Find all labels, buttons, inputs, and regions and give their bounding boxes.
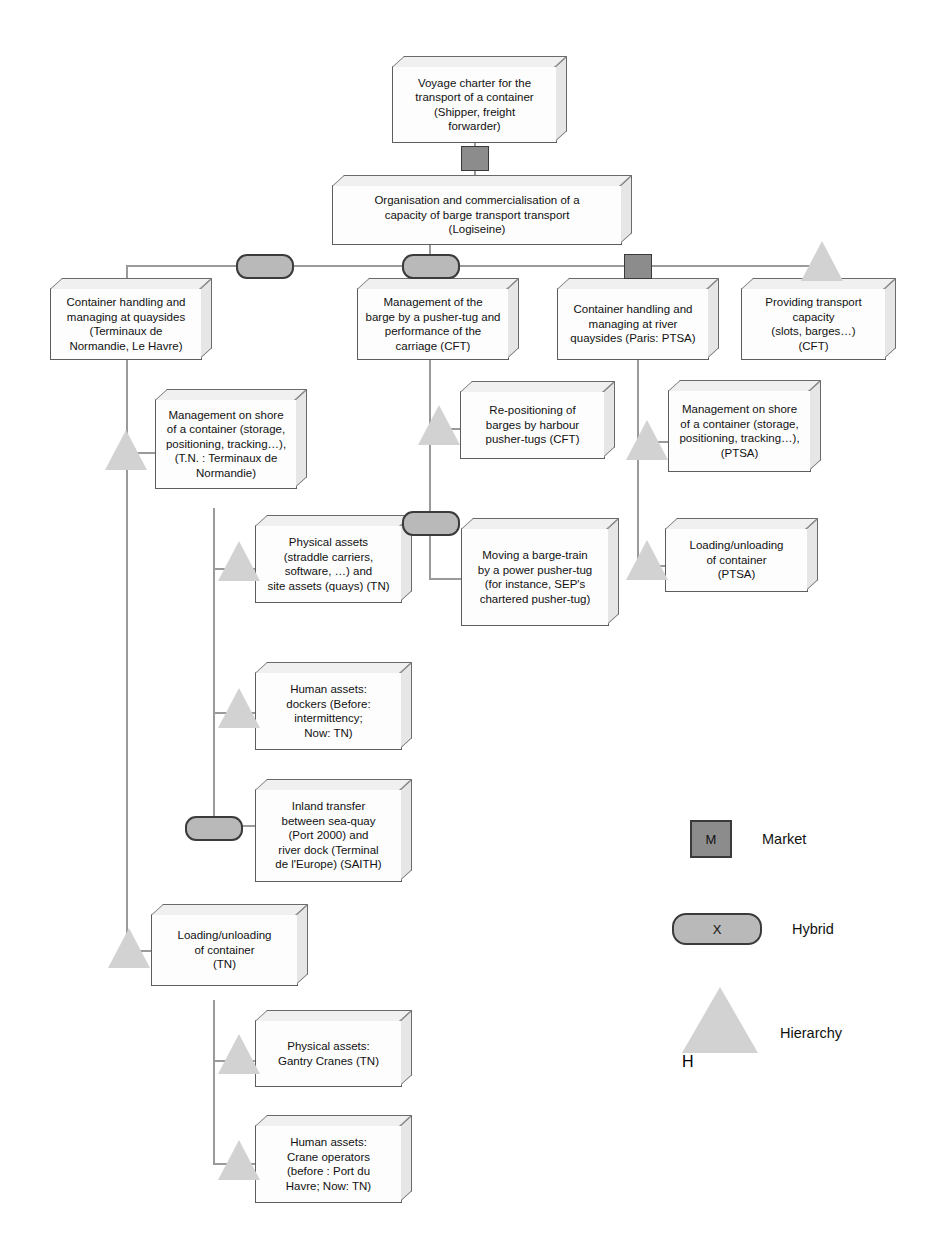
node-label: Organisation and commercialisation of a …	[374, 193, 579, 237]
hybrid-glyph-middle-branch	[402, 254, 460, 279]
node-label: Container handling and managing at quays…	[67, 295, 186, 353]
hierarchy-glyph-physical-assets-gantry	[218, 1034, 260, 1074]
hierarchy-glyph-loading-ptsa	[626, 540, 668, 580]
hybrid-glyph-letter: X	[674, 922, 760, 937]
connector-right-spine	[637, 360, 639, 567]
market-square-icon: M	[690, 820, 732, 858]
node-label: Management on shore of a container (stor…	[679, 402, 799, 460]
hierarchy-glyph-human-assets-dockers	[218, 688, 260, 728]
node-container-handling-river[interactable]: Container handling and managing at river…	[557, 288, 709, 360]
connector-middle-spine	[429, 360, 431, 580]
legend-item-market: M Market	[690, 820, 806, 858]
node-physical-assets-tn[interactable]: Physical assets (straddle carriers, soft…	[255, 525, 402, 603]
hybrid-rounded-icon: X	[672, 913, 762, 945]
hierarchy-glyph-physical-assets-tn	[218, 541, 260, 581]
hierarchy-glyph-letter: H	[682, 1053, 694, 1070]
node-physical-assets-gantry[interactable]: Physical assets: Gantry Cranes (TN)	[255, 1020, 402, 1087]
node-label: Re-positioning of barges by harbour push…	[486, 403, 580, 447]
connector-loading-tn-down	[213, 1000, 215, 1165]
node-label: Human assets: Crane operators (before : …	[286, 1135, 371, 1193]
node-label: Physical assets (straddle carriers, soft…	[267, 535, 389, 593]
node-label: Human assets: dockers (Before: intermitt…	[286, 682, 370, 740]
market-glyph-voyage	[461, 146, 489, 171]
node-repositioning-barges[interactable]: Re-positioning of barges by harbour push…	[460, 391, 605, 459]
node-label: Providing transport capacity (slots, bar…	[765, 295, 862, 353]
node-label: Container handling and managing at river…	[570, 302, 695, 346]
node-label: Management of the barge by a pusher-tug …	[366, 295, 501, 353]
hybrid-glyph-left-branch	[236, 254, 294, 279]
legend-item-hybrid: X Hybrid	[672, 913, 834, 945]
legend-label-market: Market	[762, 831, 806, 847]
connector-to-moving-barge-train	[429, 578, 461, 580]
hybrid-glyph-inland-transfer	[185, 816, 243, 841]
diagram-canvas: Voyage charter for the transport of a co…	[0, 0, 951, 1252]
node-label: Physical assets: Gantry Cranes (TN)	[278, 1039, 379, 1068]
hierarchy-glyph-mgmt-shore-ptsa	[626, 420, 668, 460]
hybrid-glyph-moving-barge-train	[402, 511, 460, 536]
legend-label-hierarchy: Hierarchy	[780, 1025, 842, 1041]
hierarchy-glyph-providing-capacity	[801, 241, 843, 281]
node-label: Management on shore of a container (stor…	[166, 408, 286, 481]
connector-mgmt-shore-down	[213, 508, 215, 825]
node-inland-transfer[interactable]: Inland transfer between sea-quay (Port 2…	[255, 789, 402, 882]
node-label: Loading/unloading of container (PTSA)	[689, 538, 783, 582]
node-loading-unloading-ptsa[interactable]: Loading/unloading of container (PTSA)	[665, 528, 808, 592]
hierarchy-triangle-icon: H	[682, 987, 758, 1053]
node-moving-barge-train[interactable]: Moving a barge-train by a power pusher-t…	[461, 528, 609, 626]
hierarchy-glyph-human-assets-crane	[218, 1140, 260, 1180]
node-human-assets-crane[interactable]: Human assets: Crane operators (before : …	[255, 1125, 402, 1203]
node-label: Moving a barge-train by a power pusher-t…	[478, 548, 592, 606]
market-glyph-letter: M	[692, 832, 730, 847]
hierarchy-triangle-shape	[682, 987, 758, 1053]
node-human-assets-dockers[interactable]: Human assets: dockers (Before: intermitt…	[255, 672, 402, 750]
connector-main-bus	[126, 265, 824, 267]
node-management-shore-ptsa[interactable]: Management on shore of a container (stor…	[668, 390, 811, 472]
node-management-shore-tn[interactable]: Management on shore of a container (stor…	[155, 399, 297, 489]
legend-label-hybrid: Hybrid	[792, 921, 834, 937]
node-label: Loading/unloading of container (TN)	[177, 928, 271, 972]
node-container-handling-quaysides[interactable]: Container handling and managing at quays…	[50, 288, 202, 360]
hierarchy-glyph-mgmt-shore-tn	[105, 430, 147, 470]
node-voyage-charter[interactable]: Voyage charter for the transport of a co…	[392, 66, 557, 143]
legend-item-hierarchy: H Hierarchy	[682, 987, 842, 1053]
legend: M Market X Hybrid H Hierarchy	[690, 820, 930, 1060]
node-providing-transport-capacity[interactable]: Providing transport capacity (slots, bar…	[741, 288, 886, 360]
hierarchy-glyph-loading-tn	[108, 928, 150, 968]
market-glyph-river-branch	[624, 254, 652, 279]
node-label: Voyage charter for the transport of a co…	[415, 76, 533, 134]
node-loading-unloading-tn[interactable]: Loading/unloading of container (TN)	[151, 914, 298, 986]
node-label: Inland transfer between sea-quay (Port 2…	[275, 799, 381, 872]
hierarchy-glyph-repositioning	[418, 405, 460, 445]
node-organisation[interactable]: Organisation and commercialisation of a …	[332, 185, 622, 245]
node-management-barge-pushertug[interactable]: Management of the barge by a pusher-tug …	[357, 288, 509, 360]
